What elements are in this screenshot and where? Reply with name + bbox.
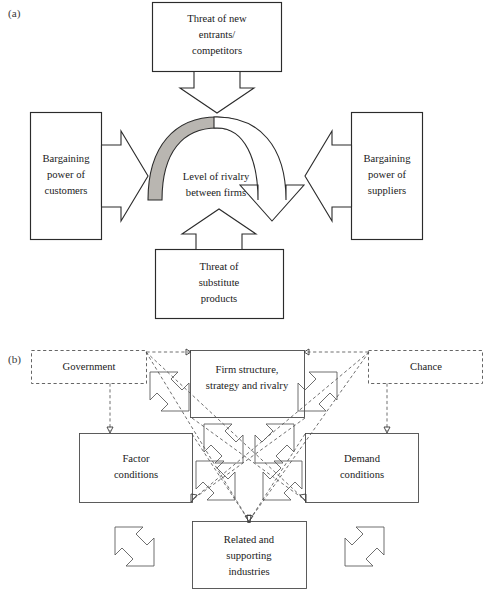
node-rivalry-line-2: between firms	[186, 187, 246, 198]
node-demand-conditions-line-2: conditions	[340, 469, 384, 480]
node-substitutes-line-1: Threat of	[199, 261, 239, 272]
node-government-label: Government	[63, 361, 116, 372]
connector-factor-to-related	[192, 434, 249, 521]
node-related-industries-line-1: Related and	[224, 534, 275, 545]
node-bargaining-customers-line-3: customers	[45, 185, 88, 196]
node-bargaining-customers-line-1: Bargaining	[43, 153, 91, 164]
panel-b-letter: (b)	[8, 353, 21, 366]
panel-a-letter: (a)	[8, 7, 21, 20]
connector-demand-to-related	[249, 434, 305, 521]
node-demand-conditions-line-1: Demand	[344, 453, 381, 464]
arrow-up-substitutes	[182, 209, 256, 250]
node-factor-conditions-line-1: Factor	[122, 453, 150, 464]
figure-root: (a) Threat of new entrants/ competitors …	[0, 0, 487, 605]
node-bargaining-suppliers-line-1: Bargaining	[364, 153, 412, 164]
node-bargaining-suppliers-line-2: power of	[368, 169, 406, 180]
node-new-entrants-line-2: entrants/	[199, 29, 236, 40]
arrow-diag-top-left	[150, 372, 189, 411]
node-new-entrants-line-3: competitors	[192, 45, 242, 56]
node-rivalry-line-1: Level of rivalry	[183, 171, 250, 182]
arrow-down-entrants	[180, 72, 254, 114]
node-substitutes-line-2: substitute	[199, 277, 240, 288]
node-related-industries-line-2: supporting	[226, 550, 272, 561]
node-factor-conditions-box	[80, 434, 193, 503]
arrow-diag-bottom-left	[115, 527, 154, 566]
node-factor-conditions-line-2: conditions	[114, 469, 158, 480]
arrow-center-lower-right	[263, 461, 302, 500]
node-new-entrants-line-1: Threat of new	[187, 13, 247, 24]
panel-a-group: (a) Threat of new entrants/ competitors …	[8, 3, 423, 319]
arrow-right-customers	[102, 131, 149, 221]
node-bargaining-suppliers-line-3: suppliers	[368, 185, 406, 196]
node-substitutes-line-3: products	[201, 293, 237, 304]
combined-figure-svg: (a) Threat of new entrants/ competitors …	[0, 0, 487, 605]
node-firm-structure-line-1: Firm structure,	[216, 364, 279, 375]
node-chance-label: Chance	[410, 361, 442, 372]
node-related-industries-line-3: industries	[228, 566, 269, 577]
rivalry-arc-white	[214, 117, 304, 221]
node-demand-conditions-box	[306, 434, 419, 503]
node-firm-structure-line-2: strategy and rivalry	[206, 380, 289, 391]
arrow-left-suppliers	[305, 131, 352, 221]
arrow-diag-bottom-right	[345, 527, 384, 566]
panel-b-group: (b) Government Chance Firm structure, st…	[8, 349, 483, 589]
node-bargaining-customers-line-2: power of	[47, 169, 85, 180]
